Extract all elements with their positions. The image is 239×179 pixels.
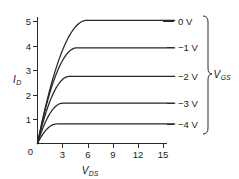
series-label-minus4v: −4 V (178, 119, 198, 130)
series-label-minus2v: −2 V (178, 71, 198, 82)
series-label-0v: 0 V (178, 16, 193, 27)
x-tick-label-6: 6 (85, 149, 90, 160)
x-tick-label-9: 9 (110, 149, 115, 160)
chart-background (0, 0, 239, 179)
y-tick-label-4: 4 (26, 41, 31, 52)
y-tick-label-2: 2 (26, 90, 31, 101)
y-tick-label-0: 0 (28, 146, 33, 157)
vgs-group-label-sub: GS (221, 74, 231, 81)
series-label-minus1v: −1 V (178, 42, 198, 53)
x-tick-label-12: 12 (133, 149, 144, 160)
series-label-minus3v: −3 V (178, 98, 198, 109)
chart-figure: 5 4 3 2 1 0 3 6 9 12 15 (0, 0, 239, 179)
x-axis-title-sub: DS (89, 170, 99, 177)
x-tick-label-3: 3 (60, 149, 65, 160)
y-tick-label-3: 3 (26, 65, 31, 76)
y-tick-label-5: 5 (26, 16, 31, 27)
x-tick-label-15: 15 (158, 149, 169, 160)
y-tick-label-1: 1 (26, 114, 31, 125)
y-axis-title-sub: D (16, 79, 21, 86)
drain-characteristics-chart: 5 4 3 2 1 0 3 6 9 12 15 (0, 0, 239, 179)
